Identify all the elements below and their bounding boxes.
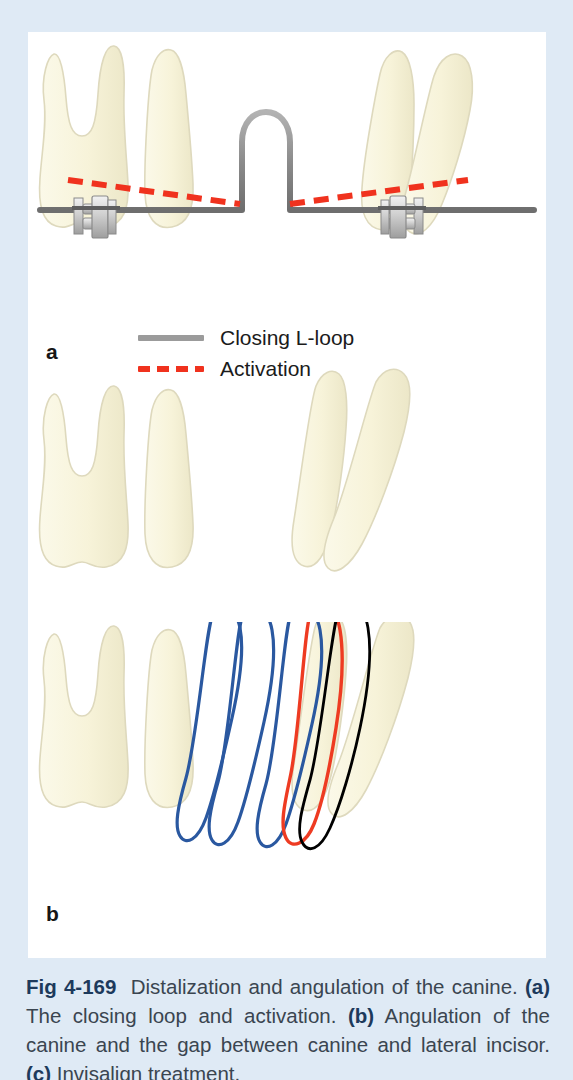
- panel-b: b: [28, 362, 546, 642]
- figure-caption: Fig 4-169 Distalization and angulation o…: [26, 972, 550, 1080]
- caption-main-text: Distalization and angulation of the cani…: [131, 975, 518, 998]
- figure-card: a Closing L-loop Activation b: [28, 32, 546, 958]
- panel-c-illustration: [28, 622, 546, 872]
- panel-b-illustration: [28, 362, 546, 622]
- panel-c: c Start Root movement, angulation Distal…: [28, 622, 546, 958]
- legend-item-closing-l-loop: Closing L-loop: [138, 322, 354, 353]
- panel-a: a Closing L-loop Activation: [28, 32, 546, 392]
- caption-marker-c: (c): [26, 1062, 51, 1080]
- caption-text-a: The closing loop and activation.: [26, 1004, 336, 1027]
- caption-text-c: Invisalign treatment.: [57, 1062, 240, 1080]
- tooth-canine-left: [145, 390, 193, 568]
- bracket-right: [378, 196, 426, 238]
- figure-number: Fig 4-169: [26, 975, 116, 998]
- panel-label-a: a: [46, 340, 58, 364]
- legend-swatch-solid-gray-icon: [138, 335, 204, 341]
- tooth-premolar-left: [40, 386, 129, 567]
- legend-label-closing-l-loop: Closing L-loop: [220, 326, 354, 350]
- tooth-premolar-left: [40, 626, 129, 807]
- caption-marker-b: (b): [348, 1004, 374, 1027]
- caption-marker-a: (a): [525, 975, 550, 998]
- bracket-left: [72, 196, 120, 238]
- panel-a-illustration: [28, 32, 546, 332]
- tooth-canine-left: [145, 50, 193, 228]
